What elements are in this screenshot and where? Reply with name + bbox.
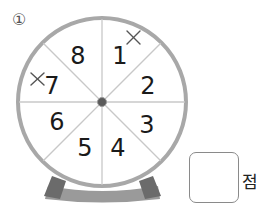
hub: [98, 98, 107, 107]
sector-label-6: 6: [49, 108, 64, 136]
sector-label-2: 2: [140, 72, 155, 100]
sector-label-3: 3: [139, 111, 154, 139]
sector-label-1: 1: [112, 42, 127, 70]
sector-label-8: 8: [70, 42, 85, 70]
spinner-problem: ① 8 1 2 3 4 5 6 7: [0, 0, 272, 216]
score-unit-label: 점: [242, 168, 258, 193]
answer-input-box[interactable]: [189, 152, 239, 203]
sector-label-4: 4: [110, 134, 125, 162]
wheel: 8 1 2 3 4 5 6 7: [18, 18, 186, 186]
sector-label-5: 5: [77, 134, 92, 162]
sector-label-7: 7: [44, 72, 59, 100]
